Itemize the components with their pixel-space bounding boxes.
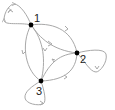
edge-3-1-outer [25, 25, 41, 81]
arrow-icon [95, 66, 99, 69]
node-3 [39, 79, 44, 84]
node-2 [75, 51, 80, 56]
node-label-1: 1 [34, 12, 40, 24]
node-1 [29, 23, 34, 28]
edge-2-3-outer [41, 53, 77, 81]
arrow-icon [65, 26, 68, 31]
arrow-icon [8, 10, 13, 13]
edge-1-2-outer [31, 24, 77, 53]
edge-2-3-inner [41, 53, 77, 81]
graph-diagram: 1 2 3 [0, 0, 115, 110]
edge-3-1-inner [31, 25, 44, 81]
node-label-2: 2 [80, 53, 86, 65]
edge-1-2-inner [31, 25, 77, 53]
node-label-3: 3 [36, 85, 42, 97]
arrow-icon [64, 75, 67, 79]
self-loop-1 [4, 4, 31, 25]
arrow-icon [43, 48, 47, 51]
